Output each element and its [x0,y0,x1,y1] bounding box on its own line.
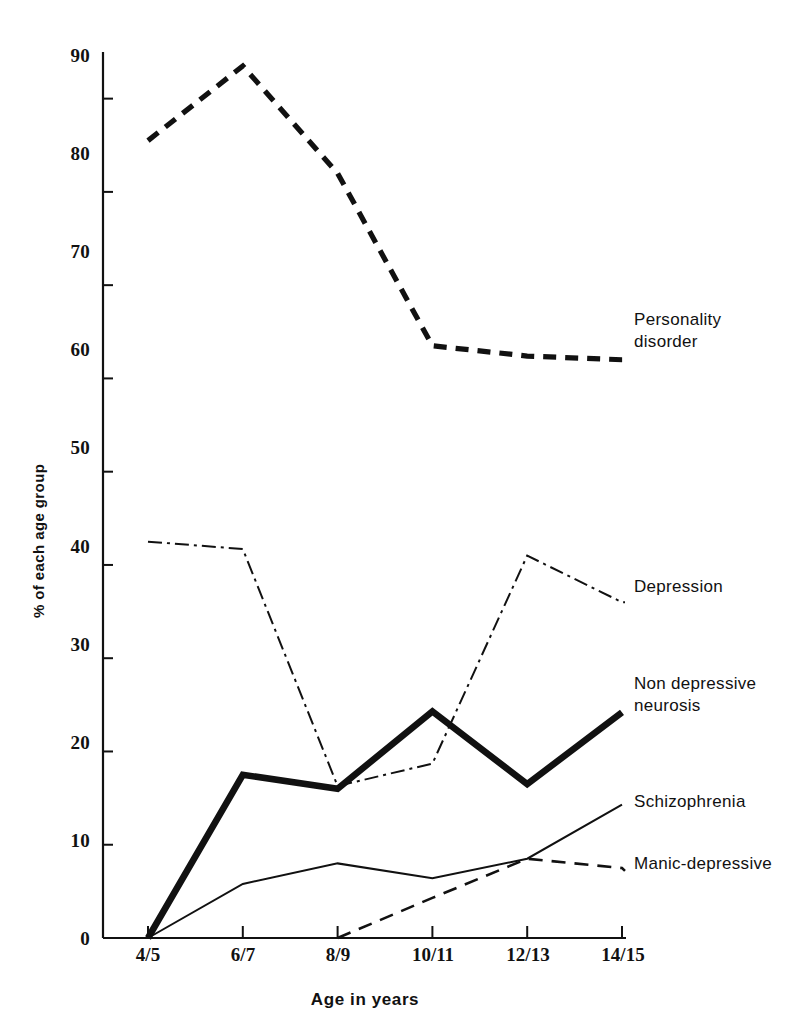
y-tick-label-10: 10 [44,830,90,852]
x-tick-label-12-13: 12/13 [488,944,568,966]
y-tick-label-90: 90 [44,45,90,67]
series-label-depression: Depression [634,576,723,598]
y-tick-label-60: 60 [44,339,90,361]
y-tick-label-30: 30 [44,634,90,656]
series-label-nondepressive-line2: neurosis [634,696,701,715]
series-label-schizophrenia: Schizophrenia [634,791,746,813]
y-axis-title: % of each age group [30,464,47,618]
series-label-personality-disorder: Personalitydisorder [634,309,721,354]
x-tick-label-8-9: 8/9 [298,944,378,966]
y-tick-label-80: 80 [44,143,90,165]
series-label-manic-depressive: Manic-depressive [634,853,772,875]
chart-figure: 90 80 70 60 50 40 30 20 10 0 4/5 6/7 8/9… [0,0,806,1030]
y-tick-label-40: 40 [44,536,90,558]
x-tick-label-14-15: 14/15 [583,944,663,966]
x-axis-title: Age in years [215,990,515,1010]
series-label-personality-line2: disorder [634,332,698,351]
y-tick-label-20: 20 [44,732,90,754]
x-tick-label-6-7: 6/7 [203,944,283,966]
series-line-non-depressive-neurosis [148,711,622,938]
y-tick-label-70: 70 [44,241,90,263]
y-tick-label-0: 0 [44,928,90,950]
chart-canvas [0,0,806,1030]
x-tick-label-4-5: 4/5 [108,944,188,966]
series-label-personality-line1: Personality [634,310,721,329]
series-line-personality-disorder [148,66,625,360]
y-tick-label-50: 50 [44,437,90,459]
y-axis-ticks [103,99,113,938]
series-label-nondepressive-line1: Non depressive [634,674,756,693]
x-axis-ticks [148,926,622,938]
x-tick-label-10-11: 10/11 [393,944,473,966]
series-label-non-depressive-neurosis: Non depressiveneurosis [634,673,756,718]
